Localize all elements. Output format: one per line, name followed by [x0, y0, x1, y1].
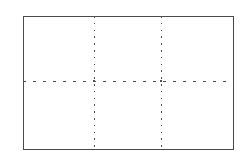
intersection-right-marker — [160, 80, 163, 83]
grid-diagram-canvas — [0, 0, 248, 162]
intersection-left-marker — [93, 80, 96, 83]
figure-container — [0, 0, 248, 162]
